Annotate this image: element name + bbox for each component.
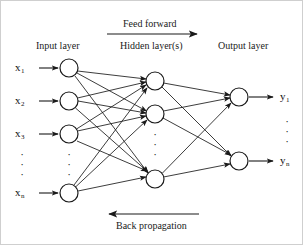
hidden-layer-label: Hidden layer(s) — [120, 41, 182, 51]
output-arrows — [249, 97, 273, 161]
input-label-x3-sub: 3 — [21, 133, 25, 141]
input-hidden-edges — [74, 71, 148, 191]
output-label-yn: yn — [280, 155, 289, 166]
hidden-node — [146, 105, 164, 123]
input-label-x1: x1 — [15, 62, 24, 73]
input-node — [60, 184, 78, 202]
input-label-x2: x2 — [15, 95, 24, 106]
input-label-x1-sub: 1 — [21, 67, 25, 75]
output-label-y1-base: y — [280, 90, 286, 102]
input-label-xn-sub: n — [21, 192, 25, 200]
input-label-xn-base: x — [15, 186, 21, 198]
input-label-x3: x3 — [15, 128, 24, 139]
input-label-x2-sub: 2 — [21, 100, 25, 108]
input-layer-nodes — [60, 59, 78, 202]
ellipsis-dot: · — [282, 136, 292, 146]
back-propagation-label: Back propagation — [116, 221, 187, 231]
output-layer-label: Output layer — [218, 41, 268, 51]
output-node — [230, 152, 248, 170]
output-layer-nodes — [230, 88, 248, 170]
input-arrows — [39, 68, 58, 193]
input-label-x1-base: x — [15, 61, 21, 73]
ellipsis-dot: · — [17, 169, 27, 179]
hidden-output-edges — [162, 83, 231, 177]
ellipsis-hidden-nodes: · · · — [150, 129, 160, 159]
output-node — [230, 88, 248, 106]
input-label-x2-base: x — [15, 94, 21, 106]
feed-forward-label: Feed forward — [123, 19, 177, 29]
ellipsis-dot: · — [150, 149, 160, 159]
ellipsis-input-nodes: · · · — [64, 149, 74, 179]
input-label-x3-base: x — [15, 127, 21, 139]
ellipsis-dot: · — [64, 169, 74, 179]
output-label-y1-sub: 1 — [286, 96, 290, 104]
hidden-node — [146, 170, 164, 188]
ellipsis-input-variables: · · · — [17, 149, 27, 179]
input-label-xn: xn — [15, 187, 24, 198]
input-node — [60, 125, 78, 143]
network-graphics — [1, 1, 303, 245]
hidden-node — [146, 72, 164, 90]
ellipsis-output-variables: · · · — [282, 116, 292, 146]
output-label-yn-base: y — [280, 154, 286, 166]
input-node — [60, 92, 78, 110]
input-node — [60, 59, 78, 77]
output-label-yn-sub: n — [286, 160, 290, 168]
output-label-y1: y1 — [280, 91, 289, 102]
input-layer-label: Input layer — [36, 41, 80, 51]
neural-network-diagram: Input layer Hidden layer(s) Output layer… — [0, 0, 303, 245]
